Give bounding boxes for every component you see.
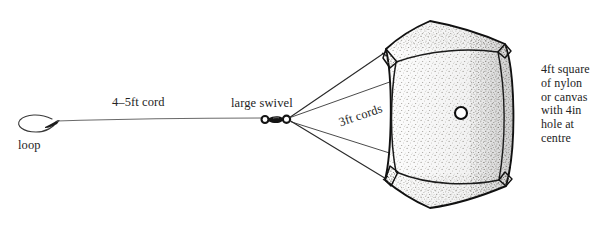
centre-hole-icon bbox=[455, 107, 467, 119]
label-loop: loop bbox=[18, 138, 41, 153]
canopy bbox=[380, 15, 525, 216]
label-swivel: large swivel bbox=[231, 96, 293, 111]
parachute-anchor-diagram: loop 4–5ft cord large swivel 3ft cords 4… bbox=[0, 0, 609, 230]
main-cord-line bbox=[57, 118, 262, 121]
shroud-cord-lower-near bbox=[291, 121, 388, 180]
canopy-tab-stubs bbox=[382, 53, 388, 180]
label-main-cord: 4–5ft cord bbox=[112, 95, 165, 110]
diagram-canvas bbox=[0, 0, 609, 230]
swivel-icon bbox=[262, 116, 291, 123]
loop-icon bbox=[19, 115, 60, 132]
label-canopy-spec: 4ft square of nylon or canvas with 4in h… bbox=[541, 63, 590, 146]
